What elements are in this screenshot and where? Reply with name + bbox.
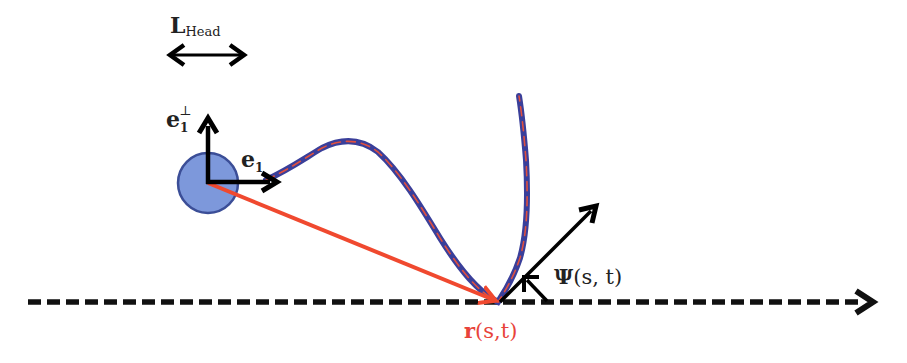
head-length-main: L xyxy=(170,12,185,38)
swimmer-diagram: LHead e1⊥ e1 Ψ(s, t) r(s,t) xyxy=(0,0,907,363)
head-length-label: LHead xyxy=(170,14,221,38)
e1-main: e xyxy=(241,146,255,172)
reference-axis-dashed xyxy=(28,291,873,313)
head-length-sub: Head xyxy=(185,24,220,39)
angle-marker-psi xyxy=(524,277,547,301)
r-label: r(s,t) xyxy=(464,320,517,342)
e1-perp-main: e xyxy=(166,106,180,132)
head-length-double-arrow xyxy=(170,45,244,65)
r-main: r xyxy=(464,318,475,343)
diagram-canvas xyxy=(0,0,907,363)
flagellum-curve xyxy=(266,96,527,302)
psi-label: Ψ(s, t) xyxy=(554,266,622,288)
position-vector-r xyxy=(208,183,494,300)
e1-sub: 1 xyxy=(255,161,263,175)
r-args: (s,t) xyxy=(475,319,517,343)
psi-args: (s, t) xyxy=(573,265,622,289)
e1-perp-label: e1⊥ xyxy=(166,108,201,134)
e1-label: e1 xyxy=(241,148,263,174)
e1-perp-sub: 1 xyxy=(180,121,188,135)
e1-perp-sup: ⊥ xyxy=(179,103,191,118)
psi-main: Ψ xyxy=(554,264,573,289)
